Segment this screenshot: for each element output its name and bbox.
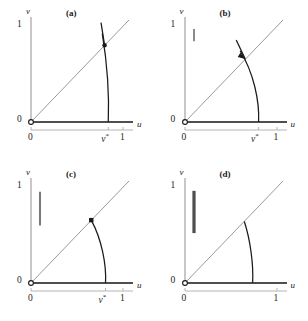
u-tick-1: 1 — [274, 132, 279, 142]
u-tick-vstar: v* — [101, 132, 109, 144]
u-axis-name: u — [291, 119, 296, 129]
u-tick-vstar: v* — [99, 293, 107, 305]
panel-b-label: (b) — [220, 8, 231, 18]
diagonal-identity-line — [185, 181, 283, 283]
v-axis-name: v — [26, 6, 30, 16]
u-axis-name: u — [137, 119, 142, 129]
panel-a-plot — [0, 0, 154, 161]
u-axis-name: u — [291, 280, 296, 290]
v-tick-0: 0 — [17, 114, 22, 124]
panel-d: (d)vu1001 — [154, 161, 308, 321]
origin-open-circle — [182, 280, 187, 285]
panel-c-label: (c) — [66, 169, 76, 179]
panel-b: (b)vu1001v* — [154, 0, 308, 161]
diagonal-identity-line — [31, 20, 129, 122]
u-tick-vstar-superscript: * — [105, 132, 109, 140]
v-tick-0: 0 — [171, 275, 176, 285]
panel-c-plot — [0, 161, 154, 321]
v-tick-0: 0 — [17, 275, 22, 285]
panel-d-label: (d) — [220, 169, 231, 179]
origin-open-circle — [29, 120, 34, 125]
diagonal-identity-line — [185, 20, 283, 122]
panel-b-plot — [154, 0, 308, 161]
u-tick-1: 1 — [120, 132, 125, 142]
origin-open-circle — [29, 280, 34, 285]
panel-a-fixed-point-dot — [102, 43, 106, 47]
u-tick-vstar-superscript: * — [255, 132, 259, 140]
origin-open-circle — [182, 120, 187, 125]
u-tick-1: 1 — [120, 293, 125, 303]
panel-c: (c)vu1001v* — [0, 161, 154, 321]
v-axis-name: v — [180, 167, 184, 177]
panel-a-label: (a) — [66, 8, 77, 18]
v-axis-name: v — [180, 6, 184, 16]
u-tick-0: 0 — [28, 132, 33, 142]
u-axis-name: u — [137, 280, 142, 290]
u-tick-0: 0 — [182, 293, 187, 303]
v-axis-name: v — [26, 167, 30, 177]
v-tick-1: 1 — [17, 180, 22, 190]
panel-c-u-nullcline-curve — [91, 220, 105, 283]
u-tick-1: 1 — [274, 293, 279, 303]
v-tick-1: 1 — [171, 180, 176, 190]
diagonal-identity-line — [31, 181, 129, 283]
panel-a: (a)vu1001v* — [0, 0, 154, 161]
figure-multi-panel-phase-plane: (a)vu1001v*(b)vu1001v*(c)vu1001v*(d)vu10… — [0, 0, 307, 321]
panel-d-plot — [154, 161, 308, 321]
u-tick-vstar-superscript: * — [103, 293, 107, 301]
panel-d-u-nullcline-curve — [244, 221, 252, 282]
u-tick-vstar: v* — [251, 132, 259, 144]
v-tick-0: 0 — [171, 114, 176, 124]
u-tick-0: 0 — [182, 132, 187, 142]
panel-c-fixed-point-square — [89, 217, 93, 221]
v-tick-1: 1 — [17, 19, 22, 29]
panel-a-curve-overshoot — [101, 23, 105, 46]
u-tick-0: 0 — [28, 293, 33, 303]
v-tick-1: 1 — [171, 19, 176, 29]
